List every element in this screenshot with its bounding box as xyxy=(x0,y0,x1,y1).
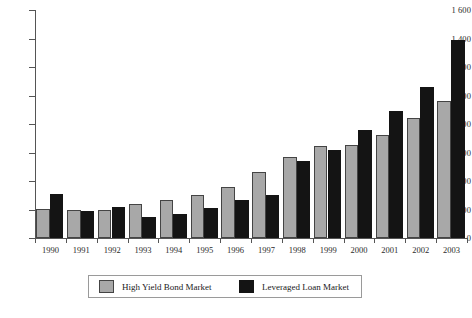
bar xyxy=(328,150,342,238)
x-axis-tick xyxy=(158,238,159,243)
legend-label: Leveraged Loan Market xyxy=(262,282,349,292)
bar-group xyxy=(128,10,159,238)
x-axis-tick-label: 2003 xyxy=(432,245,472,255)
bar-group xyxy=(313,10,344,238)
bar xyxy=(221,187,235,238)
bar xyxy=(451,40,465,238)
bar-group xyxy=(66,10,97,238)
x-axis-tick xyxy=(189,238,190,243)
bar xyxy=(67,210,81,239)
bar xyxy=(389,111,403,238)
x-axis-tick xyxy=(313,238,314,243)
bar xyxy=(420,87,434,238)
legend-label: High Yield Bond Market xyxy=(122,282,211,292)
x-axis-tick xyxy=(97,238,98,243)
bar xyxy=(358,130,372,238)
legend-swatch-icon xyxy=(99,280,114,293)
bar-group xyxy=(405,10,436,238)
legend-entry-leveraged-loan-market: Leveraged Loan Market xyxy=(239,276,349,297)
x-axis-tick xyxy=(467,238,468,243)
bar xyxy=(235,200,249,238)
bar xyxy=(345,145,359,238)
bar xyxy=(36,209,50,238)
x-axis-tick xyxy=(128,238,129,243)
plot-area xyxy=(35,10,467,238)
x-axis-tick xyxy=(344,238,345,243)
bar xyxy=(314,146,328,238)
bar-group xyxy=(436,10,467,238)
bar xyxy=(437,101,451,239)
bar xyxy=(173,214,187,238)
x-axis-tick xyxy=(35,238,36,243)
x-axis-tick xyxy=(405,238,406,243)
bar xyxy=(252,172,266,238)
bar-group xyxy=(158,10,189,238)
bar xyxy=(81,211,95,238)
bar xyxy=(266,195,280,238)
bar-group xyxy=(282,10,313,238)
bar xyxy=(407,118,421,238)
x-axis-tick xyxy=(374,238,375,243)
bar xyxy=(204,208,218,238)
bar-group xyxy=(189,10,220,238)
bar xyxy=(376,135,390,238)
legend-swatch-icon xyxy=(239,280,254,293)
bar xyxy=(129,204,143,238)
x-axis-tick xyxy=(282,238,283,243)
legend-entry-high-yield-bond-market: High Yield Bond Market xyxy=(99,276,211,297)
bar-group xyxy=(97,10,128,238)
bar-group xyxy=(220,10,251,238)
x-axis-tick xyxy=(66,238,67,243)
bar-group xyxy=(344,10,375,238)
bar xyxy=(112,207,126,238)
bar xyxy=(191,195,205,238)
x-axis-tick xyxy=(436,238,437,243)
bar xyxy=(283,157,297,238)
bar-group xyxy=(374,10,405,238)
bar xyxy=(98,210,112,239)
bar-group xyxy=(35,10,66,238)
bar-group xyxy=(251,10,282,238)
bar xyxy=(142,217,156,238)
legend: High Yield Bond Market Leveraged Loan Ma… xyxy=(88,275,362,298)
bar xyxy=(160,200,174,238)
x-axis-tick xyxy=(251,238,252,243)
bar xyxy=(297,161,311,238)
x-axis-tick xyxy=(220,238,221,243)
bar xyxy=(50,194,64,238)
